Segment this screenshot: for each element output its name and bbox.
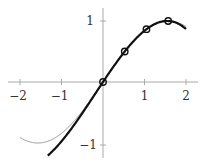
y-tick-label: 1 xyxy=(86,14,94,28)
y-tick-label: −1 xyxy=(79,138,97,152)
x-tick-label: 2 xyxy=(182,89,190,103)
x-tick-label: −2 xyxy=(9,89,27,103)
x-tick-label: −1 xyxy=(51,89,69,103)
chart: −2 −1 1 2 1 −1 xyxy=(0,0,204,165)
interpolant-curve xyxy=(48,21,186,156)
x-tick-label: 1 xyxy=(141,89,149,103)
interpolation-nodes xyxy=(100,18,172,85)
